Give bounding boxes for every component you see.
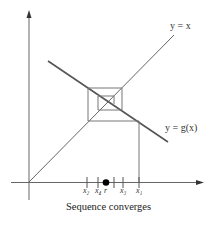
tick-label-x1: x₁	[136, 186, 142, 195]
cobweb-diagram	[0, 0, 217, 233]
tick-label-r: r	[104, 186, 107, 195]
diagram-caption: Sequence converges	[0, 201, 217, 212]
tick-label-x2: x₂	[83, 186, 89, 195]
x-axis-arrow-icon	[196, 180, 204, 185]
identity-line-label: y = x	[170, 20, 191, 31]
tick-label-x3: x₃	[120, 186, 126, 195]
y-axis-arrow-icon	[27, 10, 32, 18]
g-curve	[48, 61, 168, 142]
tick-label-x4: x₄	[95, 186, 101, 195]
g-curve-label: y = g(x)	[165, 122, 197, 133]
fixed-point-r-marker	[103, 179, 110, 186]
identity-line	[29, 35, 174, 182]
cobweb-path	[88, 88, 139, 182]
